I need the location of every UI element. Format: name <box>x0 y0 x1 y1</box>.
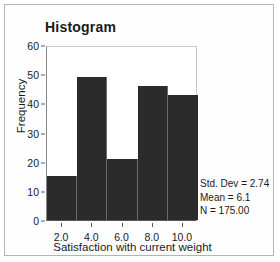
y-tick-mark <box>41 221 45 222</box>
y-tick-mark <box>41 75 45 76</box>
histogram-bar <box>77 77 107 220</box>
mean-text: Mean = 6.1 <box>200 191 269 205</box>
x-tick-mark <box>61 223 62 227</box>
x-tick-mark <box>182 223 183 227</box>
y-axis-tick-marks <box>5 46 46 221</box>
y-tick-mark <box>41 133 45 134</box>
n-text: N = 175.00 <box>200 204 269 218</box>
y-tick-mark <box>41 46 45 47</box>
statistics-annotation: Std. Dev = 2.74 Mean = 6.1 N = 175.00 <box>200 177 269 218</box>
page-title: Histogram <box>45 19 116 35</box>
std-dev-text: Std. Dev = 2.74 <box>200 177 269 191</box>
x-axis-ticks: 2.04.06.08.010.0 <box>46 223 197 239</box>
y-tick-mark <box>41 104 45 105</box>
histogram-bar <box>107 159 137 220</box>
chart-frame: Histogram Frequency 0102030405060 2.04.0… <box>4 4 274 256</box>
histogram-bar <box>138 86 168 220</box>
histogram-bars <box>47 47 196 220</box>
plot-area <box>46 46 197 221</box>
y-tick-mark <box>41 162 45 163</box>
x-axis-label: Satisfaction with current weight <box>25 241 240 253</box>
y-tick-mark <box>41 191 45 192</box>
histogram-bar <box>168 95 198 220</box>
x-tick-mark <box>152 223 153 227</box>
histogram-bar <box>47 176 77 220</box>
x-tick-mark <box>91 223 92 227</box>
x-tick-mark <box>122 223 123 227</box>
